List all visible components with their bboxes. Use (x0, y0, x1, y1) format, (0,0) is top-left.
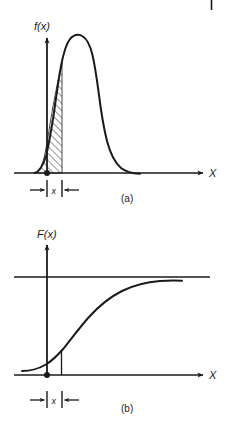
panel-a-caption: (a) (121, 193, 133, 204)
panel-b-origin-dot (44, 372, 50, 378)
panel-a-x-axis-label: X (208, 167, 217, 179)
panel-a-origin-dot (44, 170, 50, 176)
panel-b-y-axis-label: F(x) (37, 228, 57, 240)
panel-b-x-axis-label: X (208, 369, 217, 381)
figure-container: f(x) X x (a) (0, 0, 229, 432)
panel-a-dimension-label: x (51, 186, 57, 196)
panel-b-dimension-label: x (51, 396, 57, 406)
panel-a: f(x) X x (a) (14, 20, 217, 204)
panel-a-y-axis-label: f(x) (34, 20, 50, 32)
panel-b-caption: (b) (121, 403, 133, 414)
cdf-curve (22, 281, 182, 371)
panel-b: F(x) X x (b) (14, 228, 217, 414)
two-panel-distribution-figure: f(x) X x (a) (0, 0, 229, 432)
